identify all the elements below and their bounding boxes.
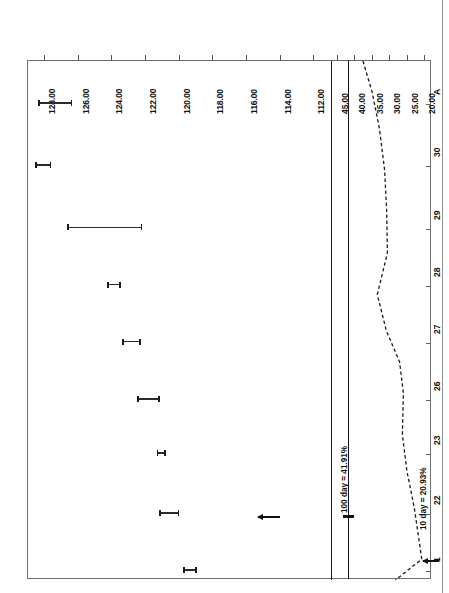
bar-cap-left — [107, 282, 109, 288]
bar-cap-left — [38, 100, 40, 106]
marker-100-day — [343, 515, 354, 517]
value-tickmark — [337, 55, 338, 60]
line-10-day — [363, 61, 422, 580]
value-tickmark — [212, 55, 213, 60]
date-tickmark — [426, 454, 431, 455]
date-tickmark — [426, 400, 431, 401]
bar-cap-left — [122, 339, 124, 345]
bar-cap-right — [50, 162, 52, 168]
bar-cap-right — [119, 282, 121, 288]
value-tick-vol-35-00: 35.00 — [375, 93, 385, 114]
value-tick-vol-40-00: 40.00 — [357, 93, 367, 114]
value-tickmark — [313, 55, 314, 60]
bar-cap-right — [164, 450, 166, 456]
date-tickmark — [426, 343, 431, 344]
date-tick-26: 26 — [432, 381, 442, 390]
date-tick-27: 27 — [432, 324, 442, 333]
date-tickmark — [426, 229, 431, 230]
scanned-page: Example 4—Gold and Silver 128.00126.0012… — [0, 0, 449, 593]
value-tickmark — [78, 55, 79, 60]
chart-frame — [27, 60, 431, 579]
value-tickmark — [372, 55, 373, 60]
date-tick-23: 23 — [432, 436, 442, 445]
date-tick-30: 30 — [432, 148, 442, 157]
bar-cap-right — [178, 510, 180, 516]
date-tickmark — [426, 166, 431, 167]
bar-cap-right — [141, 224, 143, 230]
annot-10-day: 10 day = 20.93% — [419, 467, 428, 530]
price-range-bar — [35, 164, 51, 166]
date-tick-22: 22 — [432, 496, 442, 505]
arrow-head — [422, 558, 428, 564]
value-tickmark — [280, 55, 281, 60]
value-tick-vol-25-00: 25.00 — [410, 93, 420, 114]
bar-cap-left — [35, 162, 37, 168]
bar-cap-right — [158, 396, 160, 402]
value-tickmark — [44, 55, 45, 60]
date-tickmark — [426, 104, 431, 105]
price-range-bar — [122, 341, 141, 343]
bar-cap-left — [159, 510, 161, 516]
date-tick-29: 29 — [432, 210, 442, 219]
price-range-bar — [107, 284, 121, 286]
bar-cap-left — [67, 224, 69, 230]
value-tickmark — [354, 55, 355, 60]
price-range-bar — [159, 512, 179, 514]
price-range-bar — [38, 102, 73, 104]
date-tick-28: 28 — [432, 267, 442, 276]
date-tick-A: A — [432, 89, 442, 95]
bar-cap-right — [71, 100, 73, 106]
bar-cap-left — [157, 450, 159, 456]
price-range-bar — [137, 398, 160, 400]
annot-100-day: 100 day = 41.91% — [340, 445, 349, 512]
date-tickmark — [426, 286, 431, 287]
bar-cap-right — [195, 567, 197, 573]
value-tick-vol-30-00: 30.00 — [392, 93, 402, 114]
value-tickmark — [407, 55, 408, 60]
page-scan-edge — [442, 0, 443, 593]
value-tickmark — [179, 55, 180, 60]
bar-cap-right — [139, 339, 141, 345]
price-range-bar — [157, 452, 166, 454]
value-tickmark — [145, 55, 146, 60]
value-tickmark — [389, 55, 390, 60]
date-tickmark — [426, 571, 431, 572]
price-range-bar — [67, 227, 142, 229]
bar-cap-left — [137, 396, 139, 402]
value-tickmark — [246, 55, 247, 60]
value-tickmark — [424, 55, 425, 60]
bar-cap-left — [183, 567, 185, 573]
price-range-bar — [183, 569, 197, 571]
arrow-head — [257, 514, 263, 520]
value-tickmark — [111, 55, 112, 60]
volatility-dashed-line — [28, 61, 432, 580]
